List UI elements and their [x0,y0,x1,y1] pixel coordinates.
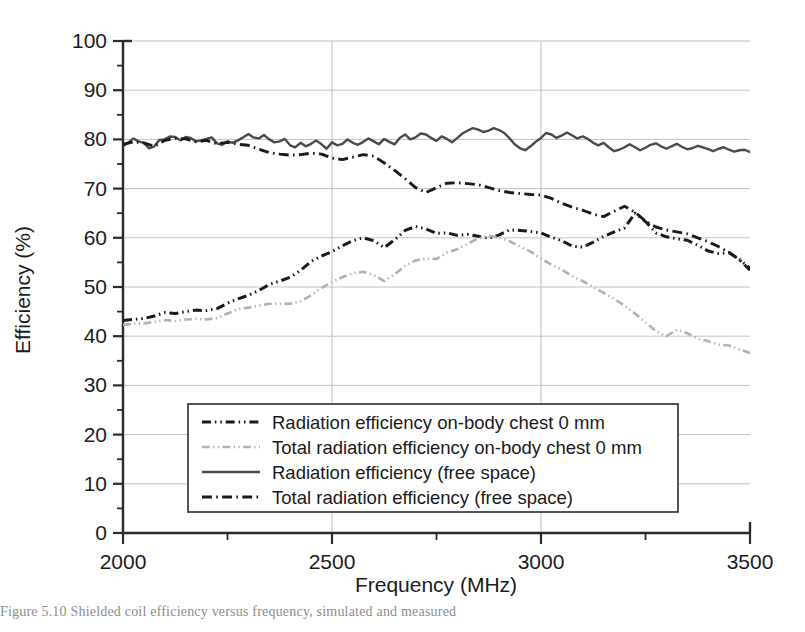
efficiency-line-chart: 01020304050607080901002000250030003500 R… [0,0,805,600]
x-tick-label: 3500 [727,550,774,573]
y-axis-title: Efficiency (%) [11,226,34,354]
x-tick-label: 3000 [518,550,565,573]
y-tick-label: 40 [84,324,107,347]
legend-label-1: Total radiation efficiency on-body chest… [272,437,642,458]
legend-label-2: Radiation efficiency (free space) [272,462,536,483]
y-tick-label: 90 [84,78,107,101]
y-tick-label: 50 [84,275,107,298]
y-tick-label: 70 [84,177,107,200]
legend-label-0: Radiation efficiency on-body chest 0 mm [272,412,605,433]
x-tick-label: 2000 [100,550,147,573]
figure-container: 01020304050607080901002000250030003500 R… [0,0,805,632]
y-tick-label: 20 [84,423,107,446]
y-tick-label: 0 [95,521,107,544]
y-tick-label: 80 [84,127,107,150]
x-axis-title: Frequency (MHz) [355,573,517,596]
y-tick-label: 10 [84,472,107,495]
y-tick-label: 100 [72,29,107,52]
chart-legend: Radiation efficiency on-body chest 0 mmT… [188,404,678,512]
y-tick-label: 30 [84,373,107,396]
y-tick-label: 60 [84,226,107,249]
x-tick-label: 2500 [309,550,356,573]
legend-label-3: Total radiation efficiency (free space) [272,487,573,508]
figure-caption: Figure 5.10 Shielded coil efficiency ver… [0,604,805,632]
